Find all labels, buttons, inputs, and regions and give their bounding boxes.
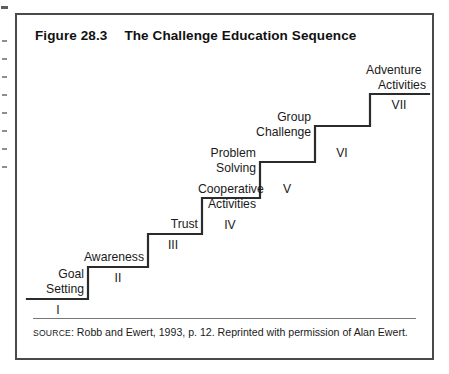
- step-4-label-line-2: Activities: [208, 197, 256, 211]
- step-6: Group Challenge VI: [256, 110, 348, 160]
- step-1-label-line-1: Goal: [58, 267, 84, 281]
- step-6-label-line-1: Group: [277, 110, 311, 124]
- staircase-diagram: Goal Setting I Awareness II Trust III Co…: [17, 15, 432, 358]
- source-divider: [33, 318, 416, 319]
- step-1-label-line-2: Setting: [46, 282, 84, 296]
- step-5-numeral: V: [283, 182, 292, 196]
- source-label: SOURCE: [33, 328, 71, 338]
- step-4-numeral: IV: [224, 218, 236, 232]
- step-7-label-line-1: Adventure: [366, 63, 422, 77]
- source-text: : Robb and Ewert, 1993, p. 12. Reprinted…: [71, 326, 408, 338]
- scan-margin-artifacts: [0, 0, 14, 374]
- step-5-label-line-1: Problem: [211, 146, 256, 160]
- step-1: Goal Setting I: [46, 267, 84, 317]
- step-5-label-line-2: Solving: [216, 161, 256, 175]
- step-6-numeral: VI: [336, 146, 348, 160]
- step-3-label-line-1: Trust: [171, 217, 199, 231]
- step-7-label-line-2: Activities: [378, 78, 426, 92]
- figure-frame: Figure 28.3The Challenge Education Seque…: [15, 13, 434, 360]
- step-4-label-line-1: Cooperative: [198, 182, 264, 196]
- step-4: Cooperative Activities IV: [198, 182, 264, 232]
- step-7-numeral: VII: [392, 98, 407, 112]
- step-7: Adventure Activities VII: [366, 63, 426, 112]
- step-2-numeral: II: [115, 271, 122, 285]
- step-6-label-line-2: Challenge: [256, 125, 311, 139]
- step-1-numeral: I: [56, 303, 59, 317]
- staircase-svg: Goal Setting I Awareness II Trust III Co…: [17, 15, 432, 358]
- source-note: SOURCE: Robb and Ewert, 1993, p. 12. Rep…: [33, 326, 408, 338]
- step-3-numeral: III: [168, 238, 178, 252]
- step-2-label-line-1: Awareness: [84, 250, 144, 264]
